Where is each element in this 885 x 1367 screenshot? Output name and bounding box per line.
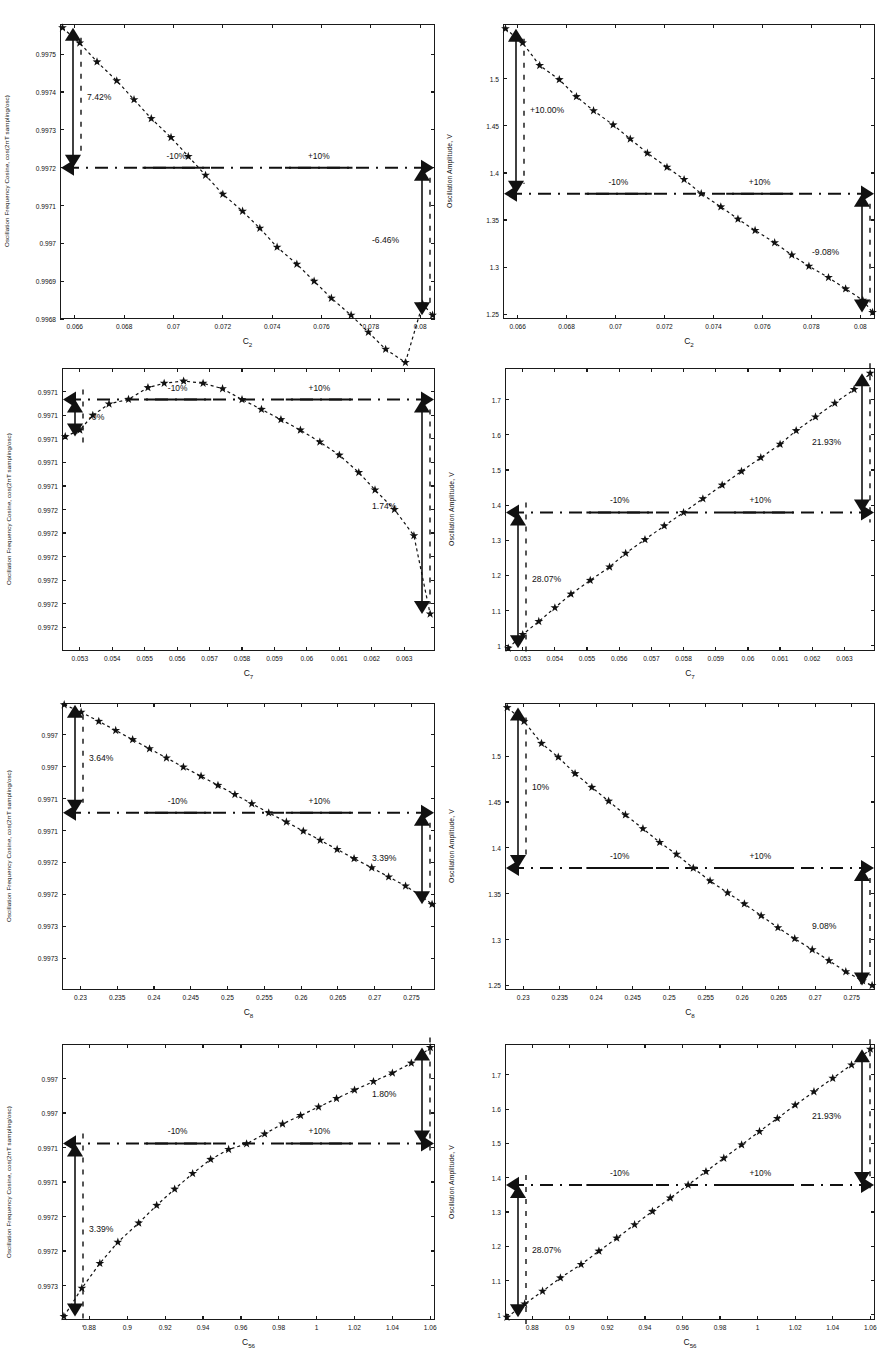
x-tickmark — [79, 368, 80, 372]
x-tickmark — [715, 647, 716, 651]
data-point-marker — [858, 296, 867, 304]
data-series-line — [508, 373, 870, 648]
annotation-right-delta: 21.93% — [812, 1111, 841, 1121]
y-tick-label: 0.9972 — [18, 624, 58, 631]
x-tick-label: 0.06 — [300, 655, 313, 662]
data-point-marker — [299, 827, 308, 835]
annotation-right-delta: 9.08% — [812, 921, 836, 931]
data-point-marker — [555, 75, 564, 83]
y-tickmark — [62, 580, 66, 581]
x-tickmark — [79, 647, 80, 651]
data-point-marker — [335, 450, 344, 458]
x-tickmark — [370, 315, 371, 319]
x-tickmark — [719, 1316, 720, 1320]
y-axis-label: Oscillation Amplitude, V — [449, 368, 456, 651]
data-point-marker — [242, 1139, 251, 1147]
x-tick-label: 0.27 — [368, 994, 381, 1001]
data-point-marker — [577, 1260, 586, 1268]
y-tickmark — [871, 219, 875, 220]
x-tick-label: 0.063 — [396, 655, 413, 662]
x-tick-label: 0.061 — [331, 655, 348, 662]
x-tickmark — [566, 24, 567, 28]
data-point-marker — [586, 576, 595, 584]
y-tickmark — [62, 862, 66, 863]
x-tickmark — [683, 368, 684, 372]
data-point-marker — [407, 1059, 416, 1067]
x-tick-label: 0.055 — [579, 655, 596, 662]
data-point-marker — [535, 61, 544, 69]
data-series-line — [64, 705, 432, 905]
y-tickmark — [503, 219, 507, 220]
arrow-head — [67, 705, 83, 718]
data-point-marker — [78, 1284, 87, 1292]
data-point-marker — [428, 311, 437, 319]
y-tickmark — [505, 847, 509, 848]
y-tick-label: 0.9971 — [16, 202, 56, 209]
x-tickmark — [240, 1316, 241, 1320]
data-point-marker — [504, 644, 513, 652]
x-tick-label: 0.061 — [772, 655, 789, 662]
data-point-marker — [214, 781, 223, 789]
y-tick-label: 0.9971 — [18, 412, 58, 419]
x-tickmark — [517, 315, 518, 319]
y-tick-label: 0.9971 — [18, 459, 58, 466]
data-point-marker — [316, 836, 325, 844]
arrow-head — [67, 1143, 83, 1156]
x-axis-label-base: C — [242, 1337, 248, 1347]
arrow-head — [414, 891, 430, 904]
x-tickmark — [371, 368, 372, 372]
x-tickmark — [274, 647, 275, 651]
annotation-left-delta: -0% — [89, 412, 104, 422]
data-point-marker — [773, 1114, 782, 1122]
x-tickmark — [374, 703, 375, 707]
x-tickmark — [371, 647, 372, 651]
data-point-marker — [426, 609, 435, 617]
y-tickmark — [62, 766, 66, 767]
y-tickmark — [871, 847, 875, 848]
y-tickmark — [431, 862, 435, 863]
data-point-marker — [350, 854, 359, 862]
x-tickmark — [566, 315, 567, 319]
x-tickmark — [713, 315, 714, 319]
x-tickmark — [165, 1044, 166, 1048]
arrow-head — [510, 512, 526, 525]
y-tick-label: 0.9972 — [18, 600, 58, 607]
data-point-marker — [866, 1045, 875, 1053]
x-tickmark — [209, 368, 210, 372]
y-tickmark — [505, 1177, 509, 1178]
y-tickmark — [431, 438, 435, 439]
arrow-head — [414, 1048, 430, 1061]
x-axis-label: C56 — [650, 1337, 730, 1349]
data-point-marker — [604, 797, 613, 805]
x-tickmark — [124, 24, 125, 28]
y-tick-label: 0.9972 — [18, 530, 58, 537]
arrow-head — [421, 160, 434, 176]
y-tick-label: 0.9972 — [18, 506, 58, 513]
y-tickmark — [871, 610, 875, 611]
y-tickmark — [505, 1246, 509, 1247]
subplot-p2: 1.251.31.351.41.451.50.0660.0680.070.072… — [0, 0, 885, 1367]
x-tickmark — [392, 1316, 393, 1320]
x-tick-label: 0.25 — [663, 994, 676, 1001]
x-tickmark — [715, 368, 716, 372]
x-tickmark — [664, 315, 665, 319]
x-tick-label: 0.07 — [609, 323, 622, 330]
data-point-marker — [501, 24, 510, 32]
y-tickmark — [871, 505, 875, 506]
y-tickmark — [431, 1112, 435, 1113]
y-axis-label: Oscillation Frequency Cosine, cos(2πT sa… — [6, 703, 12, 990]
data-point-marker — [520, 717, 529, 725]
y-tickmark — [431, 415, 435, 416]
x-tickmark — [240, 1044, 241, 1048]
data-point-marker — [537, 739, 546, 747]
data-point-marker — [199, 379, 208, 387]
y-tickmark — [871, 1211, 875, 1212]
plot-frame — [62, 1044, 435, 1320]
y-tickmark — [62, 1216, 66, 1217]
y-tick-label: 0.9972 — [18, 577, 58, 584]
data-point-marker — [847, 1060, 856, 1068]
arrow-head — [65, 155, 81, 168]
x-tickmark — [339, 368, 340, 372]
y-tick-label: 0.9968 — [16, 316, 56, 323]
data-point-marker — [184, 152, 193, 160]
